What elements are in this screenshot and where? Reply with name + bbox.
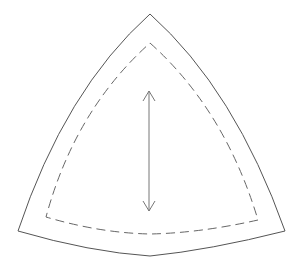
pattern-piece-diagram: [0, 0, 302, 264]
cutting-line: [18, 14, 285, 256]
grainline-arrow-icon: [143, 91, 155, 211]
